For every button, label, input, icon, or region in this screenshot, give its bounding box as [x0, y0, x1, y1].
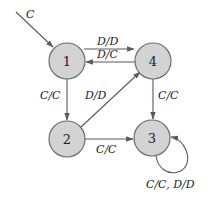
edge-label-1-2: C/C	[40, 89, 61, 102]
edge-label-3-3: C/C, D/D	[146, 178, 195, 191]
edge-label-2-3: C/C	[96, 143, 117, 156]
edge-label-4-1: D/C	[96, 48, 119, 61]
edge-label-2-4: D/D	[84, 89, 107, 102]
state-3: 3	[134, 120, 170, 156]
transition-4-to-3: C/C	[153, 78, 179, 119]
transition-2-to-4: D/D	[81, 72, 140, 127]
start-transition: C	[16, 8, 53, 47]
transition-4-to-1: D/C	[86, 48, 136, 62]
state-label-4: 4	[149, 54, 157, 69]
state-2: 2	[49, 121, 85, 157]
transition-2-to-3: C/C	[85, 139, 133, 156]
transition-1-to-4: D/D	[84, 35, 134, 49]
state-label-1: 1	[63, 54, 71, 69]
state-label-2: 2	[63, 132, 71, 147]
start-label: C	[26, 8, 35, 21]
start-arrow	[16, 12, 53, 47]
transition-1-to-2: C/C	[40, 78, 67, 120]
state-label-3: 3	[148, 131, 156, 146]
edge-label-4-3: C/C	[158, 89, 179, 102]
state-diagram: C D/D D/C C/C D/D C/C C/C C/C, D/D 1	[0, 0, 209, 200]
edge-label-1-4: D/D	[96, 35, 119, 48]
state-1: 1	[49, 43, 85, 79]
state-4: 4	[135, 43, 171, 79]
